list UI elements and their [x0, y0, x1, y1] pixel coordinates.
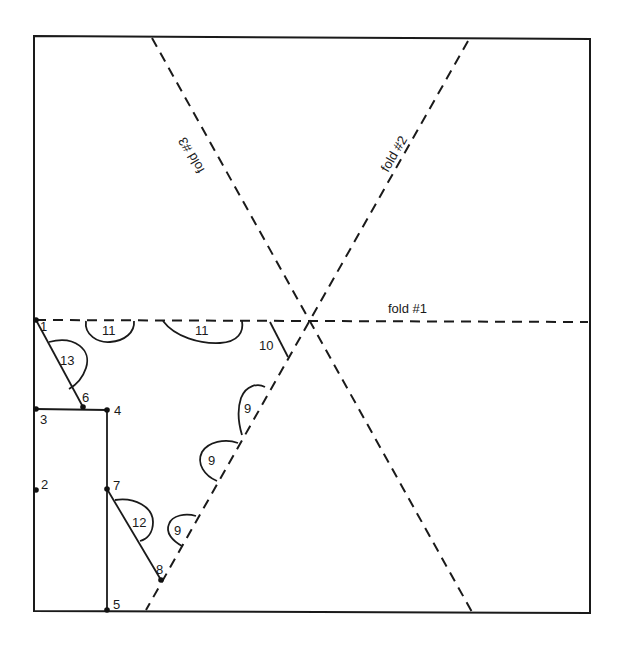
step-label-12: 12	[132, 515, 146, 530]
point-8	[158, 577, 164, 583]
point-label-4: 4	[114, 403, 121, 418]
point-4	[104, 407, 110, 413]
point-label-7: 7	[113, 478, 120, 493]
point-label-6: 6	[82, 390, 89, 405]
line-3-4	[36, 409, 107, 410]
point-label-8: 8	[156, 562, 163, 577]
point-label-2: 2	[41, 477, 48, 492]
arc-9-mid	[200, 441, 238, 481]
fold-label-2: fold #2	[378, 133, 411, 174]
line-7-8	[107, 489, 161, 580]
point-5	[104, 607, 110, 613]
point-label-5: 5	[113, 597, 120, 612]
step-label-9-top: 9	[244, 401, 251, 416]
step-label-11b: 11	[195, 323, 209, 338]
step-label-13: 13	[60, 353, 74, 368]
point-6	[80, 404, 86, 410]
step-label-11a: 11	[102, 323, 116, 338]
point-1	[33, 317, 39, 323]
fold-line-1	[36, 320, 588, 322]
point-2	[33, 487, 39, 493]
arc-9-top	[239, 385, 265, 435]
step-label-9-mid: 9	[208, 453, 215, 468]
point-label-1: 1	[40, 319, 47, 334]
point-7	[104, 486, 110, 492]
point-3	[33, 406, 39, 412]
step-label-9-low: 9	[174, 523, 181, 538]
fold-label-1: fold #1	[388, 301, 427, 316]
point-label-3: 3	[40, 412, 47, 427]
step-label-10: 10	[259, 338, 273, 353]
fold-label-3: fold #3	[175, 135, 208, 176]
folding-diagram: fold #1 fold #2 fold #3 1 2 3 4 5 6 7 8 …	[0, 0, 621, 647]
diagram-svg: fold #1 fold #2 fold #3 1 2 3 4 5 6 7 8 …	[0, 0, 621, 647]
